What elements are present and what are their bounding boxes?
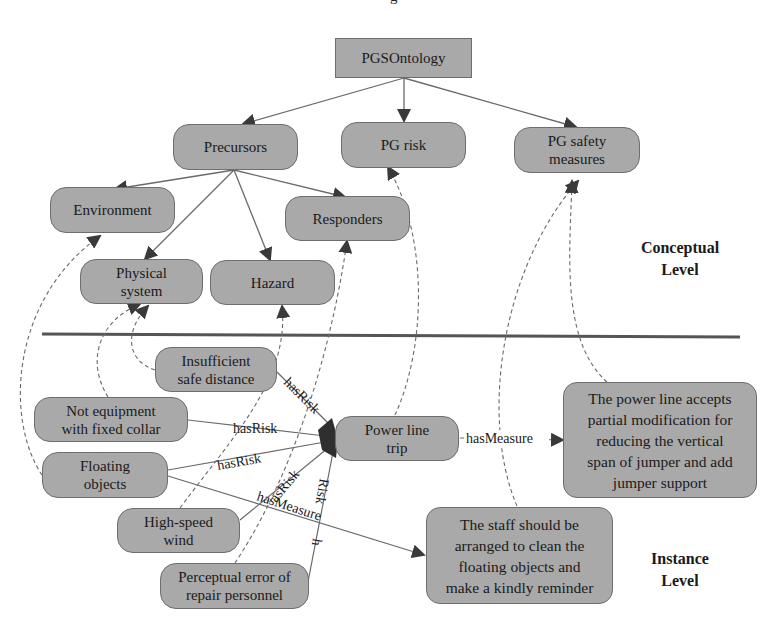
instance-level-label: Instance Level [630,548,730,592]
node-pgsontology-label: PGSOntology [361,49,445,67]
node-pg-safety-label-2: measures [549,150,605,168]
node-pg-risk[interactable]: PG risk [341,122,466,168]
node-measure2-line-4: make a kindly reminder [446,577,594,598]
node-hazard-label: Hazard [251,274,294,292]
node-insufficient-label-1: Insufficient [182,352,251,370]
node-pgsontology[interactable]: PGSOntology [335,38,472,78]
node-pg-safety-measures[interactable]: PG safety measures [514,127,640,173]
node-perceptual-label-2: repair personnel [186,586,283,604]
node-highspeed-label-2: wind [164,531,194,549]
node-pg-risk-label: PG risk [381,136,426,154]
node-not-equipment-fixed-collar[interactable]: Not equipment with fixed collar [34,397,188,442]
node-environment[interactable]: Environment [50,187,175,233]
edge-root-safety [404,78,576,127]
conceptual-level-line-2: Level [620,259,740,281]
node-floating-label-1: Floating [80,457,130,475]
instance-level-line-2: Level [630,570,730,592]
ontology-diagram: g [0,0,783,628]
node-measure2-line-1: The staff should be [460,514,579,535]
label-hasrisk-perceptual-h: h [309,537,325,546]
edge-precursors-hazard [234,170,270,260]
node-perceptual-label-1: Perceptual error of [178,568,290,586]
node-power-line-trip[interactable]: Power line trip [335,416,459,461]
node-measure-jumper-support[interactable]: The power line accepts partial modificat… [563,382,757,498]
node-environment-label: Environment [73,201,151,219]
node-measure1-line-5: jumper support [613,472,707,493]
node-highspeed-label-1: High-speed [144,513,213,531]
dashed-measure1-safety [570,181,607,382]
node-measure1-line-1: The power line accepts [588,388,731,409]
label-hasrisk-insufficient: hasRisk [281,375,323,417]
node-notequip-label-1: Not equipment [66,402,156,420]
node-physical-label-2: system [121,282,163,300]
node-measure2-line-3: floating objects and [458,556,580,577]
node-high-speed-wind[interactable]: High-speed wind [117,508,240,553]
conceptual-level-line-1: Conceptual [620,237,740,259]
node-physical-label-1: Physical [116,264,167,282]
node-powerline-label-2: trip [387,439,408,457]
node-precursors-label: Precursors [204,138,267,156]
node-hazard[interactable]: Hazard [210,260,335,305]
dashed-insufficient-physical [132,306,155,370]
node-floating-objects[interactable]: Floating objects [42,452,168,498]
node-physical-system[interactable]: Physical system [80,259,203,304]
level-separator-line [42,334,740,337]
node-responders-label: Responders [313,210,383,228]
label-hasmeasure-powerline: hasMeasure [466,431,533,446]
label-hasrisk-floating: hasRisk [216,450,262,472]
node-perceptual-error[interactable]: Perceptual error of repair personnel [160,563,309,609]
node-measure1-line-2: partial modification for [588,409,733,430]
node-powerline-label-1: Power line [365,421,430,439]
conceptual-level-label: Conceptual Level [620,237,740,281]
node-measure2-line-2: arranged to clean the [455,535,585,556]
node-responders[interactable]: Responders [285,196,410,241]
edge-precursors-responders [234,170,345,197]
node-measure-clean-floating[interactable]: The staff should be arranged to clean th… [426,507,613,604]
label-hasrisk-perceptual: Risk [313,477,332,505]
label-hasmeasure-floating: hasMeasure [255,489,323,524]
node-notequip-label-2: with fixed collar [61,420,160,438]
instance-level-line-1: Instance [630,548,730,570]
node-insufficient-safe-distance[interactable]: Insufficient safe distance [155,347,277,392]
node-insufficient-label-2: safe distance [177,370,254,388]
node-floating-label-2: objects [84,475,127,493]
edge-root-precursors [243,78,404,124]
node-precursors[interactable]: Precursors [173,124,298,170]
label-hasrisk-notequip: hasRisk [233,421,277,436]
node-pg-safety-label-1: PG safety [548,132,607,150]
node-measure1-line-3: reducing the vertical [596,430,723,451]
node-measure1-line-4: span of jumper and add [587,451,733,472]
